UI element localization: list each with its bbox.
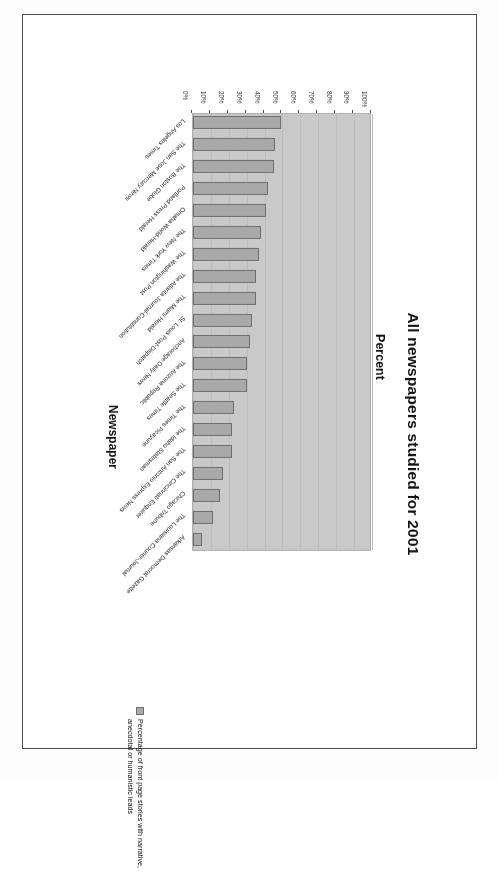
x-category-label: Los Angeles Times bbox=[144, 118, 187, 161]
gridline bbox=[229, 114, 230, 550]
chart-title: All newspapers studied for 2001 bbox=[396, 284, 422, 584]
tick-mark bbox=[227, 110, 228, 113]
tick-mark bbox=[209, 110, 210, 113]
bar-row bbox=[193, 138, 372, 151]
y-tick-label: 10% bbox=[200, 91, 207, 104]
bar-row bbox=[193, 489, 372, 502]
gridline bbox=[318, 114, 319, 550]
bar-row bbox=[193, 401, 372, 414]
bar[interactable] bbox=[193, 335, 250, 348]
bar[interactable] bbox=[193, 292, 256, 305]
chart-rotated-container: All newspapers studied for 2001 Percent … bbox=[24, 16, 475, 747]
x-category-label: The Seattle Times bbox=[146, 381, 187, 422]
bar-row bbox=[193, 226, 372, 239]
y-tick-label: 0% bbox=[182, 91, 189, 100]
gridline bbox=[283, 114, 284, 550]
y-tick-label: 100% bbox=[361, 91, 368, 107]
chart: All newspapers studied for 2001 Percent … bbox=[24, 16, 475, 747]
bar-row bbox=[193, 423, 372, 436]
gridline bbox=[247, 114, 248, 550]
tick-mark bbox=[370, 110, 371, 113]
tick-mark bbox=[334, 110, 335, 113]
gridline bbox=[354, 114, 355, 550]
gridline bbox=[336, 114, 337, 550]
tick-mark bbox=[191, 110, 192, 113]
bar[interactable] bbox=[193, 138, 275, 151]
bar-row bbox=[193, 314, 372, 327]
bar-row bbox=[193, 379, 372, 392]
bar[interactable] bbox=[193, 511, 213, 524]
x-axis-title: Newspaper bbox=[100, 372, 120, 502]
legend: Percentage of front page stories with na… bbox=[124, 707, 145, 872]
bar[interactable] bbox=[193, 533, 202, 546]
gridline bbox=[300, 114, 301, 550]
bar[interactable] bbox=[193, 357, 247, 370]
bar[interactable] bbox=[193, 226, 261, 239]
legend-label: Percentage of front page stories with na… bbox=[124, 719, 145, 869]
tick-mark bbox=[245, 110, 246, 113]
bar[interactable] bbox=[193, 379, 247, 392]
bar[interactable] bbox=[193, 489, 220, 502]
bar-row bbox=[193, 204, 372, 217]
y-tick-label: 20% bbox=[218, 91, 225, 104]
y-tick-label: 30% bbox=[236, 91, 243, 104]
bar-row bbox=[193, 182, 372, 195]
bar-row bbox=[193, 357, 372, 370]
bar-row bbox=[193, 511, 372, 524]
bar-row bbox=[193, 467, 372, 480]
bar[interactable] bbox=[193, 423, 232, 436]
bar[interactable] bbox=[193, 182, 268, 195]
gridline bbox=[372, 114, 373, 550]
y-tick-label: 40% bbox=[254, 91, 261, 104]
tick-mark bbox=[352, 110, 353, 113]
bar-row bbox=[193, 116, 372, 129]
bar[interactable] bbox=[193, 445, 232, 458]
legend-swatch-icon bbox=[136, 707, 144, 715]
bar-row bbox=[193, 445, 372, 458]
bar-row bbox=[193, 533, 372, 546]
gridline bbox=[265, 114, 266, 550]
x-category-label: The Boston Globe bbox=[146, 162, 187, 203]
bar-row bbox=[193, 160, 372, 173]
bar[interactable] bbox=[193, 270, 256, 283]
y-tick-label: 90% bbox=[344, 91, 351, 104]
tick-mark bbox=[316, 110, 317, 113]
bar[interactable] bbox=[193, 116, 281, 129]
tick-mark bbox=[298, 110, 299, 113]
bar[interactable] bbox=[193, 248, 259, 261]
y-tick-label: 50% bbox=[272, 91, 279, 104]
bar[interactable] bbox=[193, 401, 234, 414]
bar[interactable] bbox=[193, 467, 223, 480]
y-tick-label: 60% bbox=[290, 91, 297, 104]
tick-mark bbox=[281, 110, 282, 113]
bar[interactable] bbox=[193, 204, 266, 217]
bar-row bbox=[193, 248, 372, 261]
tick-mark bbox=[263, 110, 264, 113]
y-tick-label: 80% bbox=[326, 91, 333, 104]
plot-area bbox=[192, 113, 371, 551]
bar[interactable] bbox=[193, 160, 274, 173]
y-tick-label: 70% bbox=[308, 91, 315, 104]
bar-row bbox=[193, 292, 372, 305]
gridline bbox=[211, 114, 212, 550]
bar[interactable] bbox=[193, 314, 252, 327]
bar-row bbox=[193, 335, 372, 348]
gridline bbox=[193, 114, 194, 550]
bar-row bbox=[193, 270, 372, 283]
